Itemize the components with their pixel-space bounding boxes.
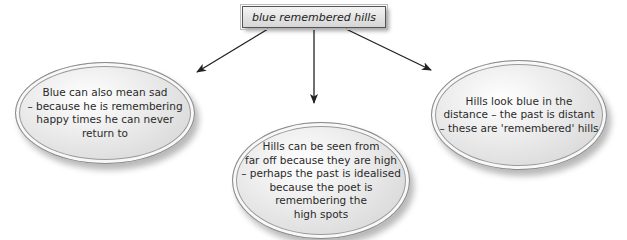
central-topic-label: blue remembered hills: [252, 11, 376, 24]
branch-sad: Blue can also mean sad – because he is r…: [15, 62, 195, 164]
branch-high-text: Hills can be seen from far off because t…: [241, 140, 401, 221]
branch-high: Hills can be seen from far off because t…: [232, 122, 410, 239]
arrow-to-left: [197, 29, 268, 72]
branch-distant-text: Hills look blue in the distance – the pa…: [439, 95, 598, 136]
central-topic: blue remembered hills: [242, 6, 386, 28]
arrow-to-right: [346, 29, 431, 70]
branch-sad-text: Blue can also mean sad – because he is r…: [27, 86, 182, 140]
branch-distant: Hills look blue in the distance – the pa…: [431, 60, 607, 170]
